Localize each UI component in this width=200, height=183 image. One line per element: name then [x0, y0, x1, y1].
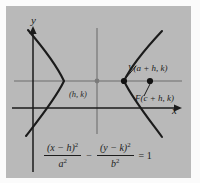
focus-point-label: F(c + h, k) [135, 94, 174, 103]
equation-num2-exponent: 2 [127, 141, 130, 148]
x-axis-label: x [172, 105, 177, 116]
equation-den2-exponent: 2 [116, 157, 119, 164]
center-point-marker [95, 79, 100, 84]
equation-fraction-1: (x − h)2 a2 [44, 141, 81, 170]
equation-den1-exponent: 2 [63, 157, 66, 164]
focus-point-marker [147, 78, 153, 84]
equation-numerator-2: (y − k)2 [97, 141, 134, 155]
center-point-label: (h, k) [69, 90, 87, 99]
hyperbola-equation: (x − h)2 a2 − (y − k)2 b2 = 1 [44, 141, 153, 170]
equation-fraction-2: (y − k)2 b2 [97, 141, 134, 170]
equation-num2-text: (y − k) [100, 142, 127, 153]
hyperbola-left-branch [26, 30, 64, 136]
hyperbola-right-branch [124, 31, 162, 137]
equation-numerator-1: (x − h)2 [44, 141, 81, 155]
equation-operator: − [85, 150, 93, 161]
equation-num1-text: (x − h) [47, 142, 75, 153]
equation-denominator-2: b2 [97, 155, 134, 170]
equation-num1-exponent: 2 [75, 141, 78, 148]
vertex-point-label: V(a + h, k) [128, 64, 168, 73]
figure-panel: y x (h, k) V(a + h, k) F(c + h, k) (x − … [6, 6, 191, 178]
y-axis-label: y [31, 15, 36, 26]
equation-denominator-1: a2 [44, 155, 81, 170]
vertex-point-marker [121, 78, 127, 84]
hyperbola-figure: y x (h, k) V(a + h, k) F(c + h, k) (x − … [0, 0, 200, 183]
equation-equals: = 1 [138, 150, 153, 161]
